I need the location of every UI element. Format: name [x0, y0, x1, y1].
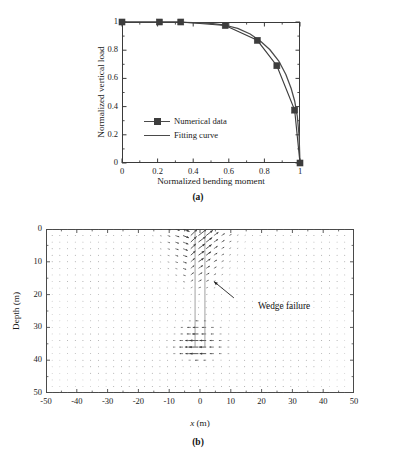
legend-square-marker-icon	[154, 118, 161, 125]
x-tick-label-b-7: 20	[257, 396, 266, 406]
x-tick-label-b-5: 0	[198, 396, 202, 406]
y-tick-label-b-0: 0	[38, 223, 42, 233]
x-tick-label-a-3: 0.6	[223, 166, 234, 176]
y-tick-label-a-5: 1	[114, 16, 118, 26]
y-tick-label-a-1: 0.2	[107, 129, 118, 139]
y-tick-label-a-4: 0.8	[107, 44, 118, 54]
y-axis-title-b: Depth (m)	[11, 292, 21, 330]
x-tick-label-b-10: 50	[350, 396, 359, 406]
x-tick-label-a-5: 1	[298, 166, 302, 176]
y-tick-label-a-3: 0.6	[107, 72, 118, 82]
x-tick-label-a-4: 0.8	[259, 166, 270, 176]
y-tick-label-b-3: 30	[34, 321, 43, 331]
legend-label-numerical-data: Numerical data	[170, 116, 227, 126]
x-axis-title-a: Normalized bending moment	[157, 176, 265, 186]
wedge-failure-annotation: Wedge failure	[258, 301, 310, 311]
legend-key-numerical-data	[144, 115, 170, 127]
y-tick-label-b-4: 40	[34, 354, 43, 364]
plot-area-a: Numerical data Fitting curve	[122, 22, 300, 163]
x-tick-label-b-9: 40	[319, 396, 328, 406]
x-tick-label-b-1: -40	[71, 396, 82, 406]
legend-a: Numerical data Fitting curve	[144, 114, 252, 142]
x-axis-unit: (m)	[194, 418, 210, 428]
x-tick-label-a-2: 0.4	[188, 166, 199, 176]
x-tick-label-a-1: 0.2	[152, 166, 163, 176]
plot-area-b	[46, 229, 354, 393]
x-tick-label-b-2: -30	[102, 396, 113, 406]
x-tick-label-b-8: 30	[288, 396, 297, 406]
chart-b-canvas	[46, 229, 354, 393]
x-tick-label-b-0: -50	[40, 396, 51, 406]
y-axis-title-a: Normalized vertical load	[96, 46, 106, 137]
x-tick-label-b-4: -10	[164, 396, 175, 406]
x-axis-title-b: x (m)	[190, 418, 210, 428]
figure-container: Numerical data Fitting curve Normalized …	[0, 0, 396, 459]
panel-caption-b: (b)	[192, 437, 204, 447]
legend-line-icon	[144, 135, 170, 136]
panel-a-normalized-interaction-chart: Numerical data Fitting curve Normalized …	[0, 0, 396, 212]
legend-entry-fitting-curve: Fitting curve	[144, 128, 252, 142]
y-tick-label-b-5: 50	[34, 387, 43, 397]
legend-entry-numerical-data: Numerical data	[144, 114, 252, 128]
x-tick-label-a-0: 0	[120, 166, 124, 176]
legend-label-fitting-curve: Fitting curve	[170, 130, 218, 140]
y-tick-label-b-2: 20	[34, 289, 43, 299]
y-tick-label-b-1: 10	[34, 256, 43, 266]
y-tick-label-a-0: 0	[114, 157, 118, 167]
panel-caption-a: (a)	[192, 192, 203, 202]
legend-key-fitting-curve	[144, 129, 170, 141]
y-tick-label-a-2: 0.4	[107, 101, 118, 111]
x-tick-label-b-3: -20	[133, 396, 144, 406]
x-tick-label-b-6: 10	[227, 396, 236, 406]
